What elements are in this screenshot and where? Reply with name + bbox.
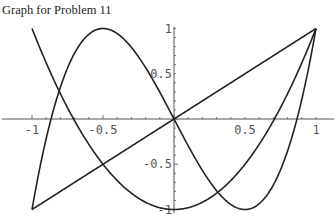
y-tick-label: 1 [165, 22, 172, 36]
x-tick-label: 0.5 [234, 123, 256, 137]
x-tick-label: -0.5 [89, 123, 118, 137]
x-tick-label: -1 [25, 123, 39, 137]
y-tick-label: 0.5 [150, 67, 172, 81]
plot-area: -1-0.50.5110.5-0.5-1 [0, 0, 336, 224]
y-tick-label: -0.5 [143, 157, 172, 171]
x-tick-label: 1 [312, 123, 319, 137]
